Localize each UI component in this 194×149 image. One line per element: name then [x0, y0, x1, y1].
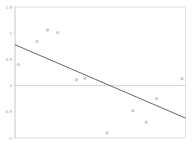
- y-tick-label: -0.5: [4, 109, 12, 114]
- data-point: [132, 110, 134, 112]
- data-point: [75, 79, 77, 81]
- data-point: [145, 121, 147, 123]
- data-point: [84, 77, 86, 79]
- y-tick-label: 0: [9, 83, 12, 88]
- data-point: [106, 132, 108, 134]
- data-point: [17, 64, 19, 66]
- plot-frame: [15, 7, 186, 138]
- y-tick-label: 1: [9, 31, 12, 36]
- data-point: [36, 40, 38, 42]
- data-point: [155, 98, 157, 100]
- regression-line: [15, 45, 186, 118]
- y-tick-label: -1: [8, 136, 12, 141]
- y-tick-label: 1.5: [6, 5, 13, 10]
- scatter-chart: 1.510.50-0.5-1: [0, 0, 194, 149]
- data-point: [181, 78, 183, 80]
- y-axis: 1.510.50-0.5-1: [4, 5, 15, 141]
- data-point: [46, 29, 48, 31]
- data-point: [57, 32, 59, 34]
- y-tick-label: 0.5: [6, 57, 13, 62]
